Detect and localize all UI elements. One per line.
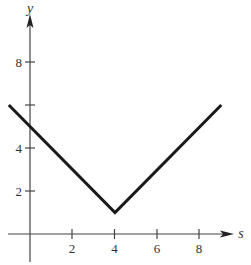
y-axis-label: y bbox=[25, 1, 34, 16]
y-tick-label-2: 2 bbox=[16, 184, 23, 199]
x-tick-label-6: 6 bbox=[154, 241, 161, 256]
x-tick-label-4: 4 bbox=[111, 241, 118, 256]
x-tick-label-2: 2 bbox=[69, 241, 76, 256]
y-tick-label-8: 8 bbox=[16, 55, 23, 70]
chart: 2 4 6 8 2 4 8 y s bbox=[0, 0, 251, 265]
x-axis-label: s bbox=[238, 226, 244, 241]
x-tick-label-8: 8 bbox=[196, 241, 203, 256]
y-tick-label-4: 4 bbox=[16, 141, 23, 156]
data-line bbox=[9, 105, 222, 213]
